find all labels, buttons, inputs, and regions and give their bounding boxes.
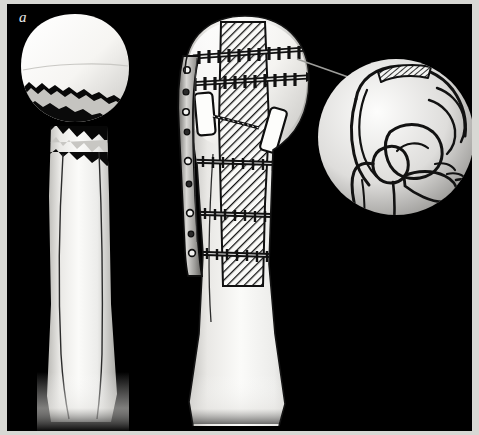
panel-inset-iliac-donor <box>318 59 472 242</box>
distal-fade-left <box>37 372 129 431</box>
humeral-head-fragment <box>7 14 149 144</box>
graft-block-proximal <box>194 92 216 135</box>
panel-center-reconstruction <box>177 16 316 431</box>
femoral-neck-medial <box>393 182 395 236</box>
distal-fade-center <box>177 374 297 431</box>
intramedullary-strut-graft <box>219 22 269 286</box>
head-screw-upper-tip <box>306 44 316 54</box>
illustration-canvas <box>7 4 472 431</box>
head-screw-lower-tip <box>306 72 316 82</box>
humeral-shaft-fragment <box>37 115 129 431</box>
panel-label: a <box>19 10 27 25</box>
panel-left-fractured-humerus <box>7 14 149 431</box>
cortical-line-c-lateral <box>275 154 278 322</box>
figure-root: a <box>0 0 479 435</box>
figure-plate: a <box>7 4 472 431</box>
femoral-shaft-distal <box>359 234 391 242</box>
